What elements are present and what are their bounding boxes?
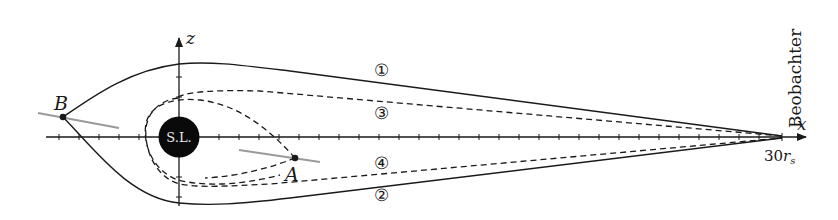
point-a-label: A <box>283 163 299 185</box>
path-4-label: ④ <box>374 153 389 173</box>
z-axis-label: z <box>185 28 196 48</box>
path-1-label: ① <box>374 60 389 80</box>
path-2-label: ② <box>374 185 389 205</box>
x-end-label: 30rs <box>764 147 795 166</box>
path-3-label: ③ <box>374 103 389 123</box>
black-hole-label: S.L. <box>166 130 191 145</box>
light-path-3-tail <box>178 91 782 136</box>
observer-label: Beobachter <box>785 28 805 128</box>
tangent-line-b <box>38 113 119 128</box>
light-path-4 <box>205 158 295 178</box>
light-path-4-tail <box>146 98 782 186</box>
light-paths-diagram: x 30rs z S.L. B A ① ② ③ ④ <box>0 0 838 220</box>
tangent-line-a <box>239 150 320 162</box>
diagram-canvas: x 30rs z S.L. B A ① ② ③ ④ <box>0 0 838 220</box>
point-b-label: B <box>53 92 68 114</box>
black-hole: S.L. <box>159 117 200 158</box>
